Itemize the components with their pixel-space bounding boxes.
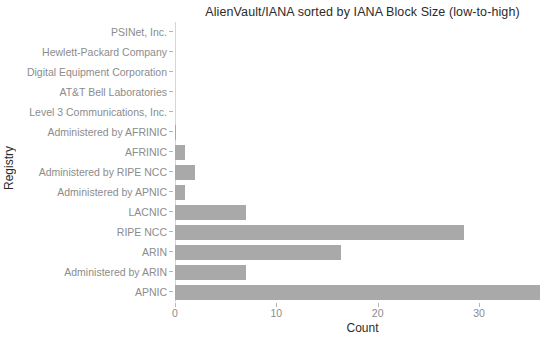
bar-row: Level 3 Communications, Inc.	[175, 102, 550, 122]
bar-row: Hewlett-Packard Company	[175, 42, 550, 62]
bar-row: AT&T Bell Laboratories	[175, 82, 550, 102]
y-axis-title: Registry	[2, 123, 16, 213]
y-axis-tick-label: RIPE NCC	[117, 222, 175, 242]
x-axis-title: Count	[175, 321, 550, 335]
bar-row: RIPE NCC	[175, 222, 550, 242]
y-axis-tick-label: ARIN	[142, 242, 175, 262]
bar-chart: AlienVault/IANA sorted by IANA Block Siz…	[0, 0, 550, 340]
y-axis-tick-label: Administered by AFRINIC	[47, 122, 175, 142]
bar	[175, 145, 185, 160]
x-axis-tick-label: 20	[358, 307, 398, 319]
bar-row: Administered by AFRINIC	[175, 122, 550, 142]
y-axis-tick-label: AT&T Bell Laboratories	[59, 82, 175, 102]
plot-area: PSINet, Inc.Hewlett-Packard CompanyDigit…	[175, 22, 550, 302]
bar	[175, 205, 246, 220]
x-axis-tick-label: 10	[256, 307, 296, 319]
bar	[175, 185, 185, 200]
bar	[175, 165, 195, 180]
y-axis-tick-label: Hewlett-Packard Company	[42, 42, 175, 62]
y-axis-tick-label: LACNIC	[128, 202, 175, 222]
bar	[175, 265, 246, 280]
x-axis-tick-label: 30	[459, 307, 499, 319]
bar-row: Administered by ARIN	[175, 262, 550, 282]
bar-row: Administered by APNIC	[175, 182, 550, 202]
y-axis-tick-label: AFRINIC	[125, 142, 175, 162]
y-axis-tick-label: Administered by ARIN	[64, 262, 175, 282]
bar-row: ARIN	[175, 242, 550, 262]
bar-row: APNIC	[175, 282, 550, 302]
y-axis-tick-label: Administered by RIPE NCC	[39, 162, 175, 182]
bar	[175, 245, 341, 260]
bar-row: AFRINIC	[175, 142, 550, 162]
chart-title: AlienVault/IANA sorted by IANA Block Siz…	[175, 5, 550, 19]
y-axis-tick-label: APNIC	[135, 282, 175, 302]
y-axis-tick-label: Administered by APNIC	[57, 182, 175, 202]
bar	[175, 125, 176, 140]
bar-row: LACNIC	[175, 202, 550, 222]
x-axis-tick-label: 0	[155, 307, 195, 319]
bar	[175, 225, 464, 240]
bar	[175, 285, 540, 300]
bar-row: Administered by RIPE NCC	[175, 162, 550, 182]
y-axis-tick-label: Level 3 Communications, Inc.	[29, 102, 175, 122]
bar-row: PSINet, Inc.	[175, 22, 550, 42]
y-axis-tick-label: Digital Equipment Corporation	[27, 62, 175, 82]
y-axis-tick-label: PSINet, Inc.	[111, 22, 175, 42]
bar-row: Digital Equipment Corporation	[175, 62, 550, 82]
